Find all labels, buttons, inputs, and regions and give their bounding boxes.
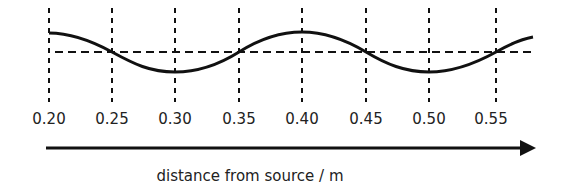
tick-label: 0.25	[95, 110, 128, 128]
tick-label: 0.30	[158, 110, 191, 128]
axis-caption: distance from source / m	[156, 167, 343, 185]
tick-label: 0.40	[285, 110, 318, 128]
wave-diagram: 0.20 0.25 0.30 0.35 0.40 0.45 0.50 0.55 …	[0, 0, 561, 186]
tick-label: 0.35	[222, 110, 255, 128]
arrowhead-icon	[520, 140, 536, 156]
tick-label: 0.55	[474, 110, 507, 128]
tick-labels: 0.20 0.25 0.30 0.35 0.40 0.45 0.50 0.55	[32, 110, 507, 128]
tick-label: 0.50	[412, 110, 445, 128]
tick-label: 0.20	[32, 110, 65, 128]
tick-label: 0.45	[349, 110, 382, 128]
distance-arrow	[46, 140, 536, 156]
